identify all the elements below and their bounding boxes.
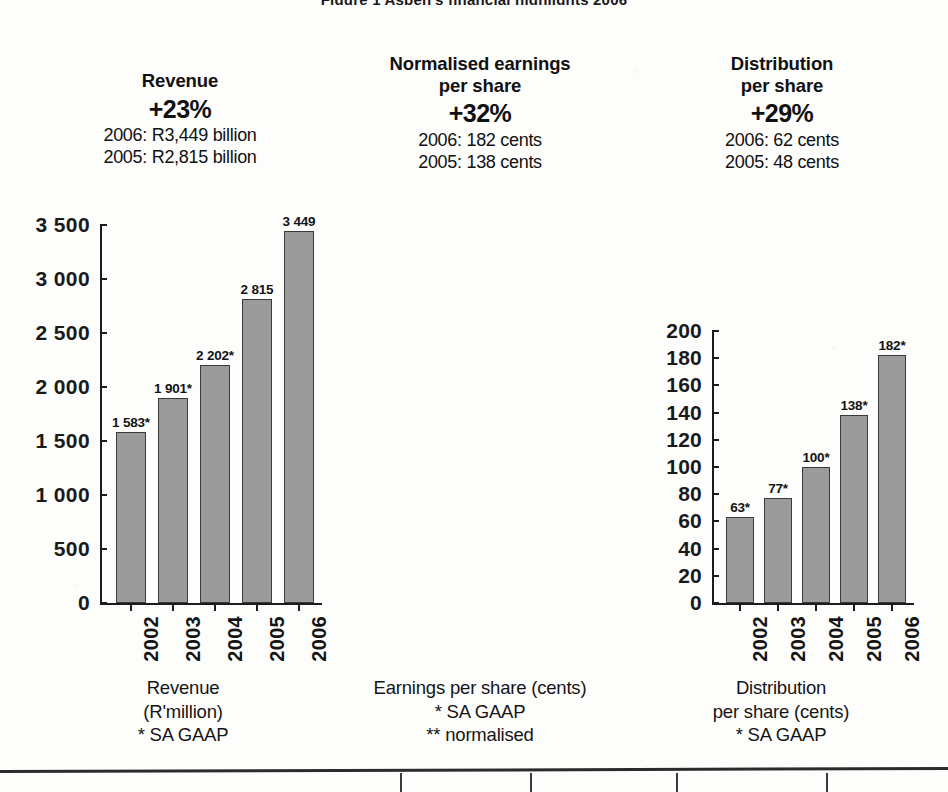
bar-value-label: 2 202* bbox=[196, 348, 234, 363]
y-axis-tick-mark bbox=[100, 278, 107, 280]
y-axis-tick-mark bbox=[100, 332, 107, 334]
headline-title-line: Normalised earnings bbox=[330, 53, 630, 75]
caption-line: (R'million) bbox=[36, 700, 330, 724]
bar: 2 815 bbox=[242, 299, 272, 603]
headline-detail-line: 2006: R3,449 billion bbox=[30, 125, 330, 146]
table-column-divider bbox=[826, 773, 828, 792]
table-below-figure bbox=[0, 770, 948, 792]
table-column-divider bbox=[676, 773, 678, 792]
caption-line: per share (cents) bbox=[630, 700, 932, 724]
headline-percent: +29% bbox=[630, 99, 934, 128]
bar-value-label: 1 901* bbox=[154, 381, 192, 396]
x-axis-tick-mark bbox=[298, 603, 300, 611]
caption-line: Distribution bbox=[630, 676, 932, 700]
caption-line: * SA GAAP bbox=[330, 700, 630, 724]
y-axis-line bbox=[100, 225, 102, 603]
y-axis-tick-label: 1 500 bbox=[35, 429, 90, 453]
y-axis-tick-label: 0 bbox=[78, 591, 90, 615]
x-axis-tick-label: 2006 bbox=[308, 616, 331, 662]
x-axis-tick-label: 2002 bbox=[140, 616, 163, 662]
y-axis-tick-mark bbox=[100, 548, 107, 550]
x-axis-tick-label: 2005 bbox=[266, 616, 289, 662]
headline-percent: +23% bbox=[30, 95, 330, 124]
caption-line: Earnings per share (cents) bbox=[330, 676, 630, 700]
chart-caption-revenue: Revenue (R'million) * SA GAAP bbox=[0, 676, 330, 747]
bar-value-label: 3 449 bbox=[283, 214, 316, 229]
headline-percent: +32% bbox=[330, 99, 630, 128]
caption-line: Revenue bbox=[36, 676, 330, 700]
bar: 2 202* bbox=[200, 365, 230, 603]
headline-detail-line: 2005: 48 cents bbox=[630, 152, 934, 173]
y-axis-tick-label: 3 500 bbox=[35, 213, 90, 237]
headline-detail-line: 2005: 138 cents bbox=[330, 152, 630, 173]
bar: 1 583* bbox=[116, 432, 146, 603]
y-axis-tick-label: 2 000 bbox=[35, 375, 90, 399]
bar-value-label: 2 815 bbox=[241, 282, 274, 297]
caption-line: * SA GAAP bbox=[36, 723, 330, 747]
chart-caption-distribution: Distribution per share (cents) * SA GAAP bbox=[630, 676, 948, 747]
chart-caption-earnings: Earnings per share (cents) * SA GAAP ** … bbox=[330, 676, 630, 747]
headline-title-line: per share bbox=[330, 75, 630, 97]
y-axis-tick-label: 1 000 bbox=[35, 483, 90, 507]
x-axis-tick-mark bbox=[130, 603, 132, 611]
headline-title-line: Revenue bbox=[30, 70, 330, 92]
bar-chart-revenue: 05001 0001 5002 0002 5003 0003 5001 583*… bbox=[100, 225, 318, 603]
x-axis-tick-label: 2004 bbox=[224, 616, 247, 662]
headline-detail-line: 2006: 62 cents bbox=[630, 130, 934, 151]
chart-panel-earnings: Normalised earnings per share +32% 2006:… bbox=[330, 0, 630, 792]
headline-block-distribution: Distribution per share +29% 2006: 62 cen… bbox=[630, 53, 948, 173]
bar: 3 449 bbox=[284, 231, 314, 603]
table-column-divider bbox=[400, 773, 402, 792]
headline-detail-line: 2006: 182 cents bbox=[330, 130, 630, 151]
chart-panel-distribution: Distribution per share +29% 2006: 62 cen… bbox=[630, 0, 948, 792]
bar: 1 901* bbox=[158, 398, 188, 603]
y-axis-tick-mark bbox=[100, 494, 107, 496]
y-axis-tick-label: 500 bbox=[54, 537, 90, 561]
y-axis-tick-label: 3 000 bbox=[35, 267, 90, 291]
caption-line: * SA GAAP bbox=[630, 723, 932, 747]
y-axis-tick-mark bbox=[100, 224, 107, 226]
headline-block-earnings: Normalised earnings per share +32% 2006:… bbox=[330, 53, 630, 173]
x-axis-line bbox=[100, 603, 322, 605]
x-axis-tick-mark bbox=[256, 603, 258, 611]
y-axis-tick-mark bbox=[100, 440, 107, 442]
y-axis-tick-mark bbox=[100, 602, 107, 604]
headline-title-line: Distribution bbox=[630, 53, 934, 75]
chart-panel-revenue: Revenue +23% 2006: R3,449 billion 2005: … bbox=[0, 0, 330, 792]
y-axis-tick-label: 2 500 bbox=[35, 321, 90, 345]
x-axis-tick-mark bbox=[172, 603, 174, 611]
y-axis-tick-mark bbox=[100, 386, 107, 388]
table-column-divider bbox=[530, 773, 532, 792]
x-axis-tick-label: 2003 bbox=[182, 616, 205, 662]
headline-title-line: per share bbox=[630, 75, 934, 97]
x-axis-tick-mark bbox=[214, 603, 216, 611]
headline-detail-line: 2005: R2,815 billion bbox=[30, 147, 330, 168]
caption-line: ** normalised bbox=[330, 723, 630, 747]
bar-value-label: 1 583* bbox=[112, 415, 150, 430]
headline-block-revenue: Revenue +23% 2006: R3,449 billion 2005: … bbox=[0, 70, 330, 168]
